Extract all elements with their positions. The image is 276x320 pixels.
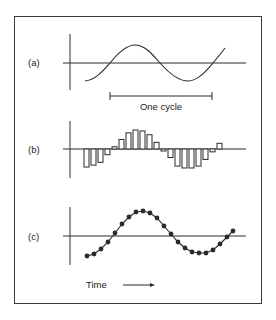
sample-bar [168, 149, 173, 158]
sample-dot [106, 240, 111, 245]
panel-c: (c) [28, 207, 246, 265]
sample-dot [99, 247, 104, 252]
sample-bar [175, 149, 180, 166]
sample-dot [162, 224, 167, 229]
sample-dot [197, 251, 202, 256]
sample-dot [141, 209, 146, 214]
time-label: Time [86, 279, 107, 290]
panel-a: (a) One cycle [28, 34, 246, 112]
sample-bar [140, 131, 145, 149]
sample-dot [134, 210, 139, 215]
sample-dot [148, 211, 153, 216]
sample-dot [155, 216, 160, 221]
sample-dot [113, 231, 118, 236]
sample-bar [91, 149, 96, 165]
sample-dot [176, 240, 181, 245]
sample-dot [211, 248, 216, 253]
sample-bar [196, 149, 201, 166]
sample-bar [189, 149, 194, 168]
one-cycle-label: One cycle [140, 101, 182, 112]
sample-bar [217, 143, 222, 149]
sample-bar [133, 130, 138, 149]
sample-bar [84, 149, 89, 167]
sample-bar [98, 149, 103, 162]
panel-a-label: (a) [28, 57, 40, 68]
one-cycle-bracket [110, 92, 212, 100]
sample-dot [231, 229, 236, 234]
sample-bar [161, 149, 166, 151]
arrowhead-icon [150, 283, 155, 287]
sample-dots [85, 209, 236, 259]
sample-bar [147, 135, 152, 149]
sample-bar [119, 140, 124, 150]
sample-dot [218, 242, 223, 247]
sample-dot [204, 251, 209, 256]
sample-bar [105, 149, 110, 155]
time-indicator: Time [86, 279, 155, 290]
sample-bar [112, 147, 117, 149]
sample-dot [92, 252, 97, 257]
panel-b-label: (b) [28, 144, 40, 155]
sample-dot [225, 235, 230, 240]
sample-bar [210, 149, 215, 152]
sample-bar [203, 149, 208, 159]
panel-b: (b) [28, 121, 246, 178]
sample-dot [127, 215, 132, 220]
sampling-diagram: (a) One cycle (b) (c) Time [0, 0, 276, 320]
sample-dot [85, 254, 90, 259]
sample-dot [190, 250, 195, 255]
sample-bar [126, 133, 131, 149]
sample-dot [169, 232, 174, 237]
sample-dot [183, 246, 188, 251]
panel-c-label: (c) [28, 231, 39, 242]
sample-bar [182, 149, 187, 168]
sample-dot [120, 222, 125, 227]
sample-bar [154, 142, 159, 149]
